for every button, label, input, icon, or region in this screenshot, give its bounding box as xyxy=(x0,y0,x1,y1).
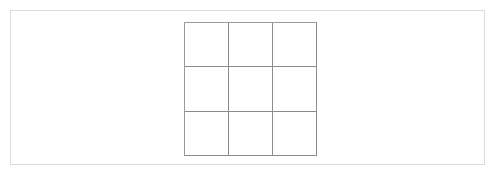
canvas-frame xyxy=(10,10,485,165)
grid-cell-r2c1[interactable] xyxy=(229,112,273,156)
grid-board[interactable] xyxy=(184,22,317,156)
grid-cell-r0c0[interactable] xyxy=(185,23,229,67)
left-blank-area xyxy=(11,11,184,164)
grid-cell-r1c1[interactable] xyxy=(229,67,273,111)
right-blank-area xyxy=(317,11,484,164)
grid-cell-r0c2[interactable] xyxy=(273,23,317,67)
grid-cell-r2c2[interactable] xyxy=(273,112,317,156)
grid-cell-r1c2[interactable] xyxy=(273,67,317,111)
grid-cell-r2c0[interactable] xyxy=(185,112,229,156)
grid-cell-r1c0[interactable] xyxy=(185,67,229,111)
grid-cell-r0c1[interactable] xyxy=(229,23,273,67)
